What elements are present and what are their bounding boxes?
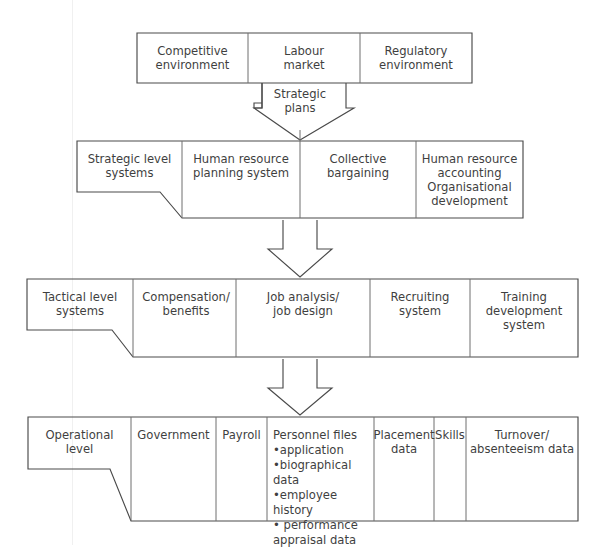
- cell-skills: Skills: [434, 428, 466, 442]
- cell-placement-data: Placement data: [374, 428, 434, 456]
- personnel-files-title: Personnel files: [273, 428, 373, 443]
- cell-training-development-system: Training development system: [470, 290, 578, 332]
- connector-label-strategic-plans: Strategic plans: [264, 88, 336, 116]
- level-label-tactical: Tactical level systems: [27, 290, 133, 318]
- cell-payroll: Payroll: [216, 428, 267, 442]
- personnel-files-list: •application •biographical data •employe…: [273, 443, 373, 548]
- cell-competitive-environment: Competitive environment: [137, 33, 248, 83]
- cell-regulatory-environment: Regulatory environment: [360, 33, 472, 83]
- cell-recruiting-system: Recruiting system: [370, 290, 470, 318]
- cell-personnel-files: Personnel files •application •biographic…: [273, 428, 373, 549]
- level-label-strategic: Strategic level systems: [77, 152, 182, 180]
- personnel-files-item: •employee history: [273, 488, 373, 518]
- cell-collective-bargaining: Collective bargaining: [300, 152, 416, 180]
- cell-human-resource-accounting: Human resource accounting Organisational…: [416, 152, 523, 209]
- cell-job-analysis-job-design: Job analysis/ job design: [236, 290, 370, 318]
- level-label-operational: Operational level: [28, 428, 131, 456]
- cell-human-resource-planning-system: Human resource planning system: [182, 152, 300, 180]
- personnel-files-item: • performance appraisal data: [273, 518, 373, 548]
- personnel-files-item: •biographical data: [273, 458, 373, 488]
- cell-government: Government: [131, 428, 216, 442]
- cell-compensation-benefits: Compensation/ benefits: [136, 290, 236, 318]
- personnel-files-item: •application: [273, 443, 373, 458]
- cell-turnover-absenteeism-data: Turnover/ absenteeism data: [466, 428, 578, 456]
- cell-labour-market: Labour market: [248, 33, 360, 83]
